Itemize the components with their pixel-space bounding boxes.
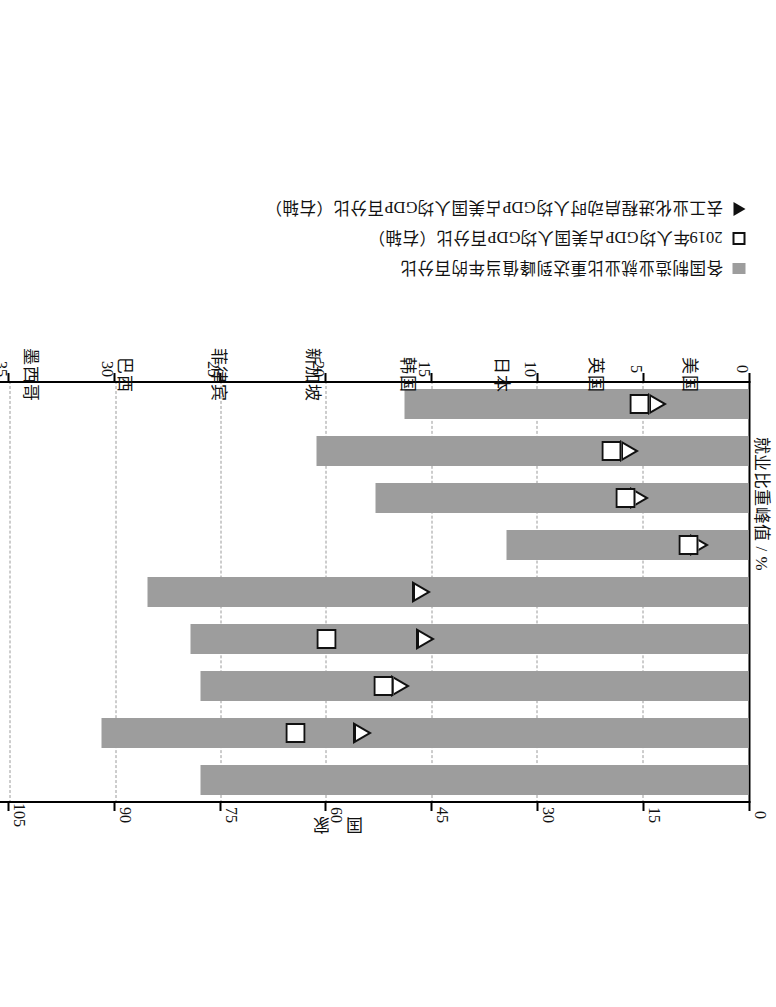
- plot-area: [0, 381, 751, 803]
- triangle-marker-日本: [391, 674, 410, 696]
- secondary-tick-label: 60: [327, 807, 345, 823]
- triangle-marker-韩国: [416, 627, 435, 649]
- legend-label: 各国制造业就业比重达到峰值当年的百分比: [400, 257, 723, 281]
- legend-label: 去工业化进程启动时人均GDP占美国人均GDP百分比（右轴）: [265, 197, 722, 221]
- square-marker-韩国: [317, 628, 337, 648]
- square-marker-中国: [630, 394, 650, 414]
- square-marker-日本: [373, 675, 393, 695]
- bar-中国: [405, 389, 749, 419]
- bar-row: [0, 427, 749, 474]
- bar-swatch-icon: [729, 259, 751, 279]
- bar-row: [0, 521, 749, 568]
- bar-row: [0, 709, 749, 756]
- secondary-tick-label: 15: [645, 807, 663, 823]
- primary-y-axis-title: 就业比重峰值 / %: [751, 436, 776, 570]
- bar-row: [0, 615, 749, 662]
- category-axis-labels: 美国英国日本韩国新加坡菲律宾巴西墨西哥中国: [0, 329, 751, 375]
- chart-figure: 就业比重峰值 / % 占美国人均GDP百分比 / % 国 家 051015202…: [0, 169, 776, 839]
- legend-item-1[interactable]: 各国制造业就业比重达到峰值当年的百分比: [400, 257, 751, 281]
- bar-韩国: [190, 623, 748, 653]
- triangle-marker-新加坡: [412, 581, 431, 603]
- category-label-日本: 日本: [490, 357, 515, 393]
- secondary-tick-label: 105: [9, 803, 27, 827]
- legend-item-3[interactable]: 去工业化进程启动时人均GDP占美国人均GDP百分比（右轴）: [265, 197, 750, 221]
- secondary-tick: [749, 803, 751, 811]
- category-label-巴西: 巴西: [114, 357, 139, 393]
- bar-row: [0, 474, 749, 521]
- category-label-新加坡: 新加坡: [302, 348, 327, 402]
- bar-row: [0, 662, 749, 709]
- secondary-tick-label: 45: [433, 807, 451, 823]
- bar-日本: [201, 670, 749, 700]
- triangle-marker-icon: [729, 199, 751, 219]
- category-label-韩国: 韩国: [396, 357, 421, 393]
- category-label-墨西哥: 墨西哥: [20, 348, 45, 402]
- triangle-marker-glyph: [734, 202, 746, 216]
- category-label-英国: 英国: [584, 357, 609, 393]
- legend-item-2[interactable]: 2019年人均GDP占美国人均GDP百分比（右轴）: [368, 227, 750, 251]
- triangle-marker-墨西哥: [620, 440, 639, 462]
- bar-巴西: [375, 483, 748, 513]
- bar-菲律宾: [506, 530, 748, 560]
- bar-swatch-glyph: [733, 263, 746, 274]
- legend-label: 2019年人均GDP占美国人均GDP百分比（右轴）: [368, 227, 722, 251]
- bar-新加坡: [148, 577, 749, 607]
- bar-row: [0, 756, 749, 803]
- square-marker-icon: [729, 229, 751, 249]
- square-marker-墨西哥: [602, 441, 622, 461]
- square-marker-巴西: [616, 488, 636, 508]
- bar-墨西哥: [316, 436, 748, 466]
- triangle-marker-英国: [353, 721, 372, 743]
- secondary-tick-label: 75: [221, 807, 239, 823]
- bar-row: [0, 568, 749, 615]
- square-marker-英国: [285, 722, 305, 742]
- secondary-tick-label: 30: [539, 807, 557, 823]
- category-label-美国: 美国: [678, 357, 703, 393]
- chart-legend: 各国制造业就业比重达到峰值当年的百分比2019年人均GDP占美国人均GDP百分比…: [111, 177, 751, 281]
- secondary-tick-label: 90: [115, 807, 133, 823]
- bar-英国: [102, 717, 749, 747]
- secondary-tick-label: 0: [751, 811, 769, 819]
- square-marker-glyph: [733, 232, 746, 245]
- plot-inner: [0, 381, 749, 803]
- bar-row: [0, 381, 749, 428]
- triangle-marker-中国: [648, 393, 667, 415]
- square-marker-菲律宾: [679, 535, 699, 555]
- category-label-菲律宾: 菲律宾: [208, 348, 233, 402]
- bar-美国: [201, 764, 749, 794]
